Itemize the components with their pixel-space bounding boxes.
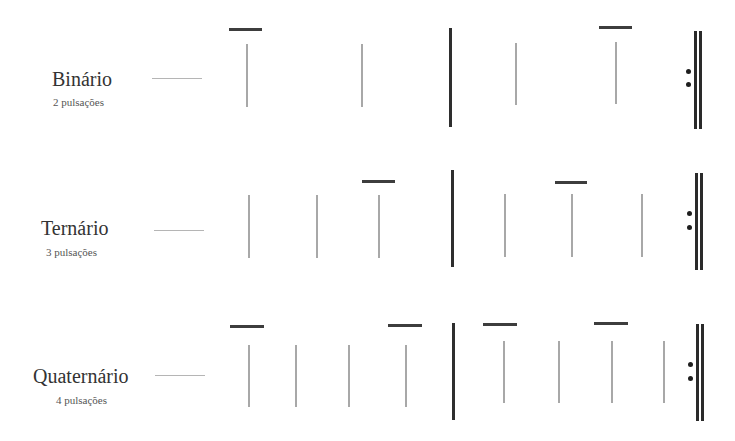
accent-mark <box>599 26 632 29</box>
beat-line <box>295 345 297 407</box>
accent-mark <box>483 323 517 326</box>
beat-line <box>316 195 318 258</box>
bar-line <box>451 170 454 267</box>
beat-line <box>641 194 643 257</box>
row-subtitle: 2 pulsações <box>53 96 104 108</box>
repeat-dot-icon <box>687 211 692 216</box>
repeat-barline <box>699 31 702 129</box>
repeat-dot-icon <box>688 376 693 381</box>
beat-line <box>246 44 248 107</box>
repeat-barline <box>696 324 699 421</box>
beat-line <box>503 341 505 403</box>
beat-line <box>515 43 517 105</box>
row-subtitle: 4 pulsações <box>56 394 107 406</box>
repeat-barline <box>694 31 697 129</box>
row-title: Binário <box>52 68 112 90</box>
repeat-dot-icon <box>687 225 692 230</box>
connector-line <box>155 375 205 376</box>
beat-line <box>361 44 363 107</box>
beat-line <box>615 42 617 104</box>
beat-line <box>348 345 350 407</box>
row-title: Ternário <box>41 217 108 239</box>
connector-line <box>152 78 202 79</box>
beat-line <box>571 194 573 257</box>
repeat-dot-icon <box>686 82 691 87</box>
bar-line <box>449 28 452 127</box>
accent-mark <box>229 28 262 31</box>
repeat-barline <box>701 324 704 421</box>
accent-mark <box>594 322 628 325</box>
row-subtitle: 3 pulsações <box>46 246 97 258</box>
beat-line <box>663 341 665 403</box>
connector-line <box>154 230 204 231</box>
repeat-dot-icon <box>686 69 691 74</box>
beat-line <box>611 341 613 403</box>
accent-mark <box>230 325 264 328</box>
repeat-barline <box>700 173 703 270</box>
beat-line <box>378 195 380 258</box>
accent-mark <box>388 324 422 327</box>
accent-mark <box>555 181 587 184</box>
beat-line <box>248 195 250 258</box>
beat-line <box>504 194 506 257</box>
repeat-dot-icon <box>688 362 693 367</box>
beat-line <box>248 345 250 407</box>
bar-line <box>452 323 455 420</box>
row-title: Quaternário <box>33 365 129 387</box>
repeat-barline <box>695 173 698 270</box>
accent-mark <box>362 180 395 183</box>
beat-line <box>558 341 560 403</box>
beat-line <box>405 345 407 407</box>
